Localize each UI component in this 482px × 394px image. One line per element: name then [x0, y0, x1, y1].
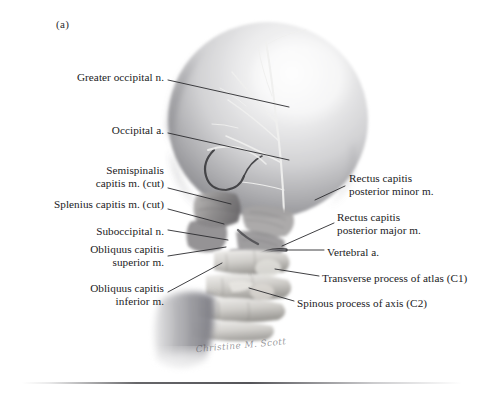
label-obliquus-capitis-inferior: Obliquus capitisinferior m. [54, 282, 164, 309]
label-line: posterior major m. [337, 224, 477, 237]
label-obliquus-capitis-superior: Obliquus capitissuperior m. [54, 243, 164, 270]
bottom-rule [22, 382, 462, 384]
label-greater-occipital-nerve: Greater occipital n. [36, 71, 164, 84]
label-semispinalis-capitis: Semispinaliscapitis m. (cut) [40, 164, 164, 191]
label-line: Rectus capitis [337, 211, 477, 224]
figure-panel: (a) Greater occipital n.Occipital a.Semi… [0, 0, 482, 394]
label-line: Rectus capitis [349, 172, 477, 185]
label-occipital-artery: Occipital a. [66, 124, 164, 137]
label-splenius-capitis: Splenius capitis m. (cut) [22, 198, 164, 211]
leader-transverse-process-atlas [275, 269, 319, 276]
label-line: superior m. [54, 256, 164, 269]
label-line: Occipital a. [66, 124, 164, 137]
leader-rectus-capitis-posterior-major [282, 223, 334, 246]
leader-suboccipital-nerve [168, 230, 228, 240]
label-suboccipital-nerve: Suboccipital n. [55, 225, 164, 238]
leader-semispinalis-capitis [168, 188, 231, 204]
label-transverse-process-atlas: Transverse process of atlas (C1) [322, 272, 482, 285]
label-line: Semispinalis [40, 164, 164, 177]
label-spinous-process-axis: Spinous process of axis (C2) [297, 297, 459, 310]
leader-greater-occipital-nerve [168, 80, 289, 107]
label-line: Suboccipital n. [55, 225, 164, 238]
leader-occipital-artery [168, 133, 289, 160]
label-rectus-capitis-posterior-major: Rectus capitisposterior major m. [337, 211, 477, 238]
label-line: Spinous process of axis (C2) [297, 297, 459, 310]
label-vertebral-artery: Vertebral a. [327, 246, 415, 259]
label-line: Vertebral a. [327, 246, 415, 259]
label-line: Obliquus capitis [54, 243, 164, 256]
label-rectus-capitis-posterior-minor: Rectus capitisposterior minor m. [349, 172, 477, 199]
figure-marker: (a) [56, 18, 69, 30]
leader-obliquus-capitis-inferior [168, 263, 222, 292]
label-line: Splenius capitis m. (cut) [22, 198, 164, 211]
label-line: capitis m. (cut) [40, 177, 164, 190]
label-line: inferior m. [54, 295, 164, 308]
label-line: posterior minor m. [349, 185, 477, 198]
label-line: Transverse process of atlas (C1) [322, 272, 482, 285]
leader-rectus-capitis-posterior-minor [315, 186, 345, 200]
leader-obliquus-capitis-superior [168, 247, 226, 256]
label-line: Greater occipital n. [36, 71, 164, 84]
leader-splenius-capitis [168, 209, 224, 224]
leader-spinous-process-axis [249, 288, 294, 301]
label-line: Obliquus capitis [54, 282, 164, 295]
